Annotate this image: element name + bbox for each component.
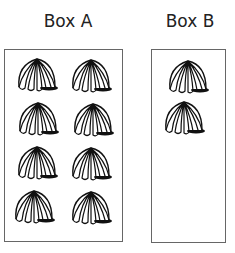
- box-a-title: Box A: [28, 11, 108, 31]
- shell-icon: [67, 146, 115, 182]
- shell-icon: [69, 102, 117, 138]
- shell-icon: [14, 101, 62, 137]
- shell-icon: [13, 145, 61, 181]
- shell-icon: [67, 58, 115, 94]
- shell-icon: [13, 57, 61, 93]
- shell-icon: [164, 59, 212, 95]
- shell-icon: [10, 189, 58, 225]
- shell-icon: [160, 100, 208, 136]
- shell-icon: [67, 190, 115, 226]
- box-b-title: Box B: [150, 11, 230, 31]
